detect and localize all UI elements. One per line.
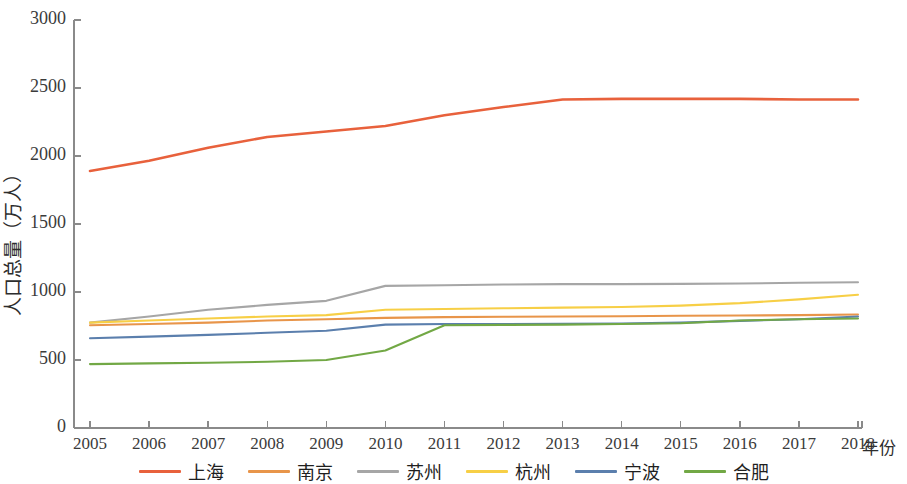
legend-label: 合肥	[733, 458, 769, 484]
chart-plot-area	[0, 0, 907, 484]
series-line-合肥	[90, 319, 858, 365]
x-tick-label: 2014	[592, 434, 652, 454]
series-line-杭州	[90, 295, 858, 323]
legend-swatch-icon	[684, 470, 726, 473]
y-tick-label: 2500	[2, 76, 66, 97]
axis-lines	[74, 20, 862, 428]
legend-item-南京[interactable]: 南京	[248, 458, 333, 484]
population-line-chart: 人口总量（万人） 年份 050010001500200025003000 200…	[0, 0, 907, 484]
legend-item-上海[interactable]: 上海	[139, 458, 224, 484]
legend-label: 南京	[297, 458, 333, 484]
legend-item-宁波[interactable]: 宁波	[575, 458, 660, 484]
legend-label: 宁波	[624, 458, 660, 484]
x-tick-label: 2007	[178, 434, 238, 454]
y-tick-label: 500	[2, 348, 66, 369]
legend-label: 上海	[188, 458, 224, 484]
y-tick-label: 1500	[2, 212, 66, 233]
x-tick-label: 2008	[237, 434, 297, 454]
x-tick-label: 2013	[533, 434, 593, 454]
y-axis-title: 人口总量（万人）	[0, 140, 25, 340]
legend-swatch-icon	[575, 470, 617, 473]
chart-legend: 上海南京苏州杭州宁波合肥	[0, 458, 907, 484]
legend-item-杭州[interactable]: 杭州	[466, 458, 551, 484]
series-lines	[90, 99, 858, 364]
x-tick-label: 2010	[355, 434, 415, 454]
legend-item-苏州[interactable]: 苏州	[357, 458, 442, 484]
y-tick-label: 3000	[2, 8, 66, 29]
y-tick-label: 2000	[2, 144, 66, 165]
x-tick-label: 2005	[60, 434, 120, 454]
x-tick-label: 2006	[119, 434, 179, 454]
x-tick-label: 2011	[414, 434, 474, 454]
x-tick-label: 2012	[474, 434, 534, 454]
x-tick-label: 2017	[769, 434, 829, 454]
series-line-上海	[90, 99, 858, 171]
y-tick-label: 1000	[2, 280, 66, 301]
y-tick-label: 0	[2, 416, 66, 437]
x-tick-label: 2016	[710, 434, 770, 454]
x-tick-label: 2018	[828, 434, 888, 454]
tick-marks	[74, 20, 858, 428]
legend-item-合肥[interactable]: 合肥	[684, 458, 769, 484]
x-tick-label: 2009	[296, 434, 356, 454]
legend-swatch-icon	[466, 470, 508, 473]
legend-swatch-icon	[357, 470, 399, 473]
x-tick-label: 2015	[651, 434, 711, 454]
legend-swatch-icon	[248, 470, 290, 473]
legend-swatch-icon	[139, 470, 181, 473]
legend-label: 杭州	[515, 458, 551, 484]
legend-label: 苏州	[406, 458, 442, 484]
